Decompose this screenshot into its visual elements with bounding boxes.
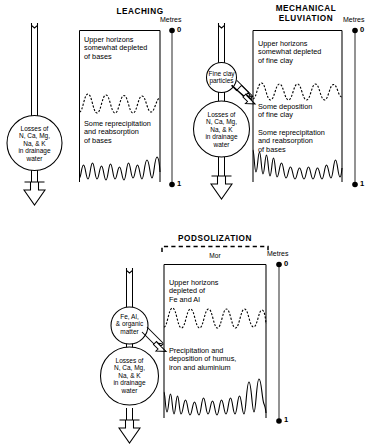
podsolization-scale [276,262,282,424]
podsolization-upper-boundary [164,308,266,328]
podsolization-scale-label: Metres [267,250,288,257]
eluviation-scale-tick-top: 0 [360,25,364,34]
leaching-upper-horizon-label: Upper horizons somewhat depleted of base… [84,36,160,61]
eluviation-losses-label: Losses of N, Ca, Mg, Na, & K in drainage… [193,111,250,148]
leaching-scale-tick-bottom: 1 [177,179,181,188]
panel-title-podsolization: PODSOLIZATION [165,234,265,244]
leaching-scale [169,28,175,188]
podsolization-lower-boundary [164,379,266,415]
leaching-scale-tick-top: 0 [177,25,181,34]
eluviation-upper-boundary [253,83,342,100]
eluviation-middle-horizon-label: Some deposition of fine clay [258,103,340,120]
podsolization-feal-label: Fe, Al, & organic matter [104,313,155,335]
leaching-flow-arrow [24,23,45,205]
podsolization-mor-label: Mor [190,252,240,259]
eluviation-lower-horizon-label: Some reprecipitation and reabsorption of… [258,129,340,154]
leaching-losses-label: Losses of N, Ca, Mg, Na, & K in drainage… [6,125,63,162]
eluviation-fine-clay-label: Fine clay particles [200,70,243,85]
eluviation-scale-label: Metres [343,16,364,23]
panel-title-eluviation: MECHANICAL ELUVIATION [256,4,356,23]
leaching-lower-horizon-label: Some reprecipitation and reabsorption of… [84,120,162,145]
eluviation-scale-tick-bottom: 1 [360,179,364,188]
leaching-upper-boundary [80,94,161,113]
diagram-linework: .ln{fill:none;stroke:#000;stroke-width:1… [0,0,374,448]
podsolization-losses-label: Losses of N, Ca, Mg, Na, & K in drainage… [101,357,158,394]
leaching-lower-boundary [80,157,161,180]
panel-podsolization-graphics [101,247,282,444]
podsolization-scale-tick-bottom: 1 [284,415,288,424]
diagram-canvas: .ln{fill:none;stroke:#000;stroke-width:1… [0,0,374,448]
eluviation-scale [352,28,358,188]
podsolization-upper-horizon-label: Upper horizons depleted of Fe and Al [169,279,253,304]
podsolization-scale-tick-top: 0 [284,259,288,268]
podsolization-lower-horizon-label: Precipitation and deposition of humus, i… [169,347,259,372]
eluviation-lower-boundary [253,150,342,179]
eluviation-upper-horizon-label: Upper horizons somewhat depleted of fine… [258,40,340,65]
leaching-scale-label: Metres [160,16,181,23]
